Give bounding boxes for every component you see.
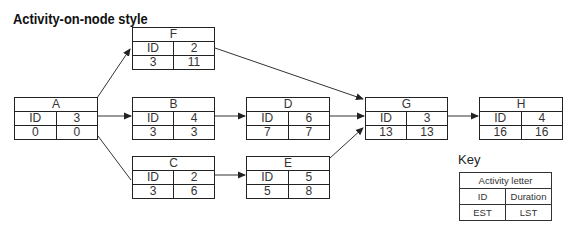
key-est: EST [460,205,505,220]
node-id-label: ID [133,112,173,125]
node-f: F ID2 311 [132,27,215,70]
node-est: 3 [133,56,173,69]
node-duration: 2 [173,171,214,184]
node-g: G ID3 1313 [365,97,448,140]
node-letter: E [247,157,329,170]
key-duration: Duration [505,189,551,204]
node-id-label: ID [133,171,173,184]
node-id-label: ID [133,42,173,55]
node-d: D ID6 77 [246,97,330,140]
node-duration: 3 [56,112,98,125]
node-duration: 4 [173,112,214,125]
node-lst: 3 [173,126,214,139]
edge-e-g [330,128,363,158]
key-label: Key [458,152,480,167]
node-duration: 5 [288,171,330,184]
node-c: C ID2 36 [132,156,215,199]
key-lst: LST [505,205,551,220]
node-est: 3 [133,185,173,198]
edge-a-c [98,136,131,180]
node-est: 3 [133,126,173,139]
node-letter: A [15,98,97,111]
node-letter: B [133,98,214,111]
node-est: 16 [480,126,521,139]
node-duration: 6 [288,112,330,125]
node-est: 13 [366,126,406,139]
key-id: ID [460,189,505,204]
node-est: 0 [15,126,56,139]
node-lst: 0 [56,126,98,139]
node-duration: 2 [173,42,214,55]
node-lst: 16 [521,126,563,139]
node-a: A ID3 00 [14,97,98,140]
node-letter: D [247,98,329,111]
node-lst: 11 [173,56,214,69]
node-lst: 13 [406,126,447,139]
edge-a-f [97,49,130,98]
node-id-label: ID [247,112,288,125]
node-letter: G [366,98,447,111]
node-lst: 7 [288,126,330,139]
node-id-label: ID [247,171,288,184]
key-header: Activity letter [460,173,551,188]
node-e: E ID5 58 [246,156,330,199]
node-duration: 3 [406,112,447,125]
node-est: 5 [247,185,288,198]
node-letter: H [480,98,562,111]
edge-f-g [215,48,363,99]
node-letter: C [133,157,214,170]
node-lst: 8 [288,185,330,198]
node-id-label: ID [366,112,406,125]
node-id-label: ID [480,112,521,125]
node-est: 7 [247,126,288,139]
node-duration: 4 [521,112,563,125]
node-id-label: ID [15,112,56,125]
node-h: H ID4 1616 [479,97,563,140]
node-letter: F [133,28,214,41]
key-legend: Activity letter IDDuration ESTLST [459,172,552,221]
node-lst: 6 [173,185,214,198]
node-b: B ID4 33 [132,97,215,140]
